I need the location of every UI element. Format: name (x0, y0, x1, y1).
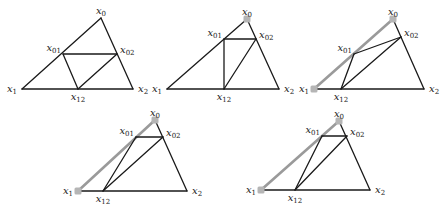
vertex-marker-x1 (258, 187, 265, 194)
panel-4: x0x1x2x01x02x12 (63, 107, 202, 206)
label-x01: x01 (305, 124, 320, 137)
edge-x12-x02 (103, 137, 163, 191)
label-x2: x2 (138, 83, 148, 96)
label-x0: x0 (150, 107, 160, 120)
panel-2: x0x1x2x01x02x12 (152, 6, 294, 104)
vertex-marker-x1 (75, 188, 82, 195)
label-x1: x1 (7, 83, 17, 96)
label-x0: x0 (334, 108, 344, 121)
label-x1: x1 (246, 184, 256, 197)
edge-x12-x02 (224, 39, 256, 89)
label-x0: x0 (96, 5, 106, 18)
label-x02: x02 (404, 27, 419, 40)
edge-x12-x02 (78, 54, 117, 89)
label-x0: x0 (242, 6, 252, 19)
edge-x01-x12 (295, 136, 322, 190)
edge-x01-x12 (63, 54, 78, 89)
label-x02: x02 (120, 44, 135, 57)
label-x12: x12 (334, 91, 349, 104)
label-x01: x01 (337, 42, 352, 55)
label-x12: x12 (217, 91, 232, 104)
label-x2: x2 (192, 185, 202, 198)
edge-x1-x0 (78, 120, 155, 191)
vertex-marker-x1 (311, 86, 318, 93)
label-x12: x12 (288, 192, 303, 205)
label-x1: x1 (152, 83, 162, 96)
label-x1: x1 (63, 185, 73, 198)
label-x01: x01 (119, 125, 134, 138)
label-x0: x0 (388, 6, 398, 19)
label-x2: x2 (284, 83, 294, 96)
label-x12: x12 (71, 91, 86, 104)
label-x02: x02 (259, 29, 274, 42)
label-x12: x12 (96, 193, 111, 206)
label-x01: x01 (46, 42, 61, 55)
label-x01: x01 (207, 27, 222, 40)
panel-5: x0x1x2x01x02x12 (246, 108, 385, 205)
label-x02: x02 (166, 127, 181, 140)
label-x2: x2 (429, 83, 439, 96)
edge-x01-x02 (354, 37, 401, 54)
label-x2: x2 (375, 184, 385, 197)
panel-3: x0x1x2x01x02x12 (299, 6, 439, 104)
label-x1: x1 (299, 83, 309, 96)
edge-x12-x02 (295, 136, 347, 190)
panel-1: x0x1x2x01x02x12 (7, 5, 148, 104)
label-x02: x02 (350, 126, 365, 139)
triangle-subdivision-figure: x0x1x2x01x02x12x0x1x2x01x02x12x0x1x2x01x… (0, 0, 445, 212)
